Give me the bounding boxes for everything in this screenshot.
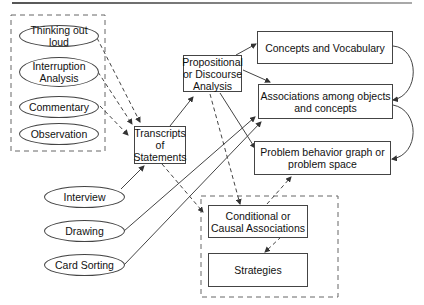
arrow-conditional-strategies bbox=[265, 237, 281, 252]
method-commentary: Commentary bbox=[19, 96, 99, 118]
conditional-associations-box: Conditional or Causal Associations bbox=[208, 205, 308, 238]
arrow-transcripts-conditional bbox=[162, 164, 203, 212]
problem-behavior-box: Problem behavior graph or problem space bbox=[254, 141, 391, 175]
label: Interview bbox=[63, 191, 105, 203]
arrow-associations-problem bbox=[392, 105, 413, 159]
method-interview: Interview bbox=[44, 186, 125, 208]
arrow-propositional-problem bbox=[220, 93, 255, 148]
concepts-vocabulary-box: Concepts and Vocabulary bbox=[257, 31, 393, 64]
method-interruption-analysis: Interruption Analysis bbox=[19, 57, 99, 87]
label: Card Sorting bbox=[55, 259, 114, 271]
arrow-commentary-transcripts bbox=[100, 106, 128, 135]
propositional-box: Propositional or Discourse Analysis bbox=[183, 55, 242, 92]
method-drawing: Drawing bbox=[44, 220, 125, 242]
label: Drawing bbox=[65, 225, 104, 237]
arrow-interview-transcripts bbox=[121, 166, 144, 189]
label: Associations among objects and concepts bbox=[260, 90, 390, 114]
arrow-concepts-associations bbox=[393, 46, 413, 100]
label: Interruption Analysis bbox=[32, 60, 85, 84]
arrow-conditional-problem bbox=[267, 177, 291, 204]
label: Concepts and Vocabulary bbox=[265, 42, 385, 54]
strategies-box: Strategies bbox=[208, 253, 308, 287]
associations-box: Associations among objects and concepts bbox=[258, 84, 393, 119]
label: Strategies bbox=[234, 264, 281, 276]
arrow-propositional-concepts bbox=[236, 44, 256, 55]
method-card-sorting: Card Sorting bbox=[44, 254, 125, 276]
arrow-interruption-transcripts bbox=[98, 72, 132, 124]
transcripts-box: Transcripts of Statements bbox=[134, 126, 186, 164]
label: Commentary bbox=[29, 101, 89, 113]
method-thinking-out-loud: Thinking out loud bbox=[19, 25, 99, 47]
label: Transcripts of Statements bbox=[133, 127, 186, 163]
label: Conditional or Causal Associations bbox=[211, 210, 305, 234]
arrow-transcripts-propositional bbox=[170, 97, 193, 126]
method-observation: Observation bbox=[19, 123, 99, 145]
label: Problem behavior graph or problem space bbox=[260, 146, 384, 170]
label: Propositional or Discourse Analysis bbox=[182, 56, 243, 92]
label: Observation bbox=[31, 128, 88, 140]
label: Thinking out loud bbox=[20, 24, 98, 48]
arrow-propositional-associations bbox=[243, 70, 270, 82]
